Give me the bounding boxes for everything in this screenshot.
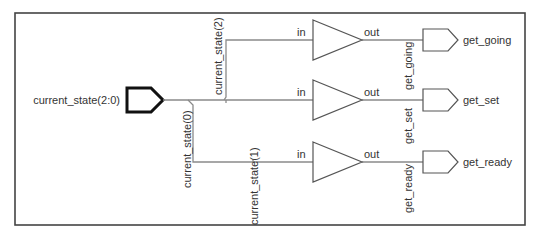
output-port-label: get_going — [463, 34, 511, 46]
buffer-in-label: in — [297, 148, 306, 160]
output-port-label: get_set — [463, 94, 499, 106]
net-label-get-ready: get_ready — [402, 164, 414, 213]
bus-tap-label-bit1: current_state(1) — [248, 147, 260, 225]
buffer-out-label: out — [364, 148, 379, 160]
bus-tap-label-bit0: current_state(0) — [181, 110, 193, 188]
buffer-out-label: out — [364, 26, 379, 38]
buffer-in-label: in — [297, 26, 306, 38]
buffer-in-label: in — [297, 86, 306, 98]
net-label-get-going: get_going — [402, 42, 414, 90]
schematic-canvas: current_state(2:0) current_state(2) curr… — [0, 0, 535, 239]
input-port-label: current_state(2:0) — [33, 94, 120, 106]
net-label-get-set: get_set — [402, 108, 414, 144]
output-port-label: get_ready — [463, 156, 512, 168]
bus-tap-label-bit2: current_state(2) — [212, 17, 224, 95]
buffer-out-label: out — [364, 86, 379, 98]
